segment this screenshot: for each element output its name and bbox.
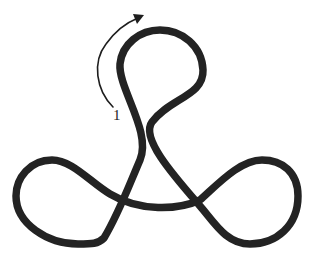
strand-segment-left-leg-to-top-lobe: [16, 30, 298, 244]
arrow-label: 1: [113, 108, 121, 123]
knot-strand: [16, 30, 298, 244]
knot-diagram: [0, 0, 312, 264]
